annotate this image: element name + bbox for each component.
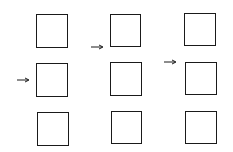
square-col3-row3	[185, 111, 217, 144]
arrow-right-icon	[164, 59, 177, 65]
square-col3-row1	[184, 13, 216, 46]
square-col3-row2	[185, 62, 217, 95]
square-col2-row3	[111, 111, 142, 144]
square-col1-row3	[37, 112, 69, 146]
square-col1-row1	[36, 14, 68, 48]
square-col1-row2	[36, 63, 68, 97]
arrow-right-icon	[17, 77, 30, 83]
square-col2-row1	[110, 14, 141, 47]
arrow-right-icon	[91, 44, 104, 50]
square-col2-row2	[110, 62, 142, 96]
